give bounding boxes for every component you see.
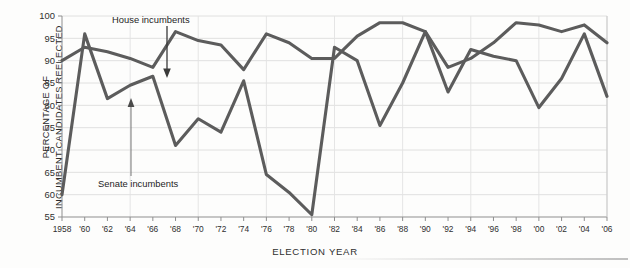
y-tick-label: 100	[39, 10, 55, 21]
x-tick-label: 1958	[53, 224, 72, 234]
x-tick-label: '84	[352, 224, 363, 234]
x-tick-label: '94	[465, 224, 476, 234]
chart-figure: PERCENTAGE OF INCUMBENT CANDIDATES REELE…	[0, 0, 630, 268]
page-edge-shadow	[330, 258, 628, 260]
x-tick-label: '96	[488, 224, 499, 234]
x-axis-title: ELECTION YEAR	[0, 246, 630, 257]
x-tick-label: '86	[374, 224, 385, 234]
x-tick-label: '06	[602, 224, 613, 234]
y-tick-label: 95	[45, 33, 55, 44]
line-chart-plot: 556065707580859095100 1958'60'62'64'66'6…	[0, 0, 630, 268]
x-tick-label: '66	[147, 224, 158, 234]
x-tick-label: '90	[420, 224, 431, 234]
x-tick-label: '70	[193, 224, 204, 234]
x-tick-label: '88	[397, 224, 408, 234]
x-tick-label: '00	[533, 224, 544, 234]
x-tick-label: '60	[79, 224, 90, 234]
x-tick-label: '82	[329, 224, 340, 234]
x-tick-label: '76	[261, 224, 272, 234]
y-tick-label: 80	[45, 100, 55, 111]
x-tick-label: '64	[125, 224, 136, 234]
y-tick-label: 60	[45, 189, 55, 200]
annotation-senate-incumbents: Senate incumbents	[98, 178, 178, 189]
y-axis-ticks: 556065707580859095100	[39, 10, 62, 222]
x-tick-label: '72	[215, 224, 226, 234]
x-tick-label: '92	[443, 224, 454, 234]
y-tick-label: 85	[45, 77, 55, 88]
x-tick-label: '62	[102, 224, 113, 234]
y-tick-label: 70	[45, 144, 55, 155]
x-tick-label: '02	[556, 224, 567, 234]
house-annotation-arrowhead	[163, 69, 171, 79]
senate-annotation-arrowhead	[128, 98, 135, 107]
x-tick-label: '98	[511, 224, 522, 234]
x-tick-label: '68	[170, 224, 181, 234]
x-axis-ticks: 1958'60'62'64'66'68'70'72'74'76'78'80'82…	[53, 217, 613, 234]
x-tick-label: '74	[238, 224, 249, 234]
y-tick-label: 90	[45, 55, 55, 66]
x-tick-label: '80	[306, 224, 317, 234]
y-tick-label: 75	[45, 122, 55, 133]
x-tick-label: '78	[284, 224, 295, 234]
x-tick-label: '04	[579, 224, 590, 234]
annotation-house-incumbents: House incumbents	[112, 14, 190, 25]
y-tick-label: 65	[45, 167, 55, 178]
y-tick-label: 55	[45, 211, 55, 222]
